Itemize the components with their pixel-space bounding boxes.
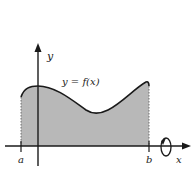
bound-label-b: b <box>146 154 152 165</box>
shaded-region <box>21 82 149 146</box>
bound-label-a: a <box>18 154 24 165</box>
diagram-canvas: y y = f(x) a b x <box>0 0 193 174</box>
y-axis-label: y <box>46 50 54 63</box>
x-axis-arrow-icon <box>182 143 191 150</box>
x-axis-label: x <box>176 154 182 165</box>
y-axis-arrow-icon <box>35 43 42 52</box>
curve-label: y = f(x) <box>61 76 100 87</box>
